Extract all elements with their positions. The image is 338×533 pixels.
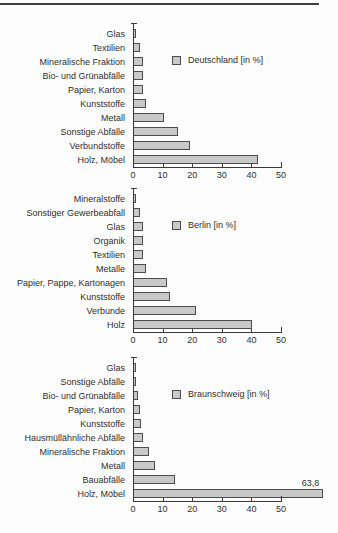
bar <box>134 278 167 287</box>
x-axis-berlin: 01020304050 <box>133 332 338 350</box>
legend-swatch-icon <box>172 390 181 399</box>
bar <box>134 141 190 150</box>
category-label: Sonstige Abfälle <box>0 375 129 389</box>
x-axis-tick <box>251 329 252 332</box>
x-tick-label: 30 <box>217 170 227 180</box>
category-label: Holz <box>0 318 129 332</box>
category-label: Mineralische Fraktion <box>0 55 129 69</box>
x-axis-tick <box>192 164 193 167</box>
x-tick-label: 10 <box>158 170 168 180</box>
bar <box>134 250 143 259</box>
x-tick-label: 50 <box>276 335 286 345</box>
x-axis-tick <box>222 498 223 501</box>
bar <box>134 264 146 273</box>
x-axis-braunschweig: 01020304050 <box>133 501 338 519</box>
x-tick-label: 40 <box>246 170 256 180</box>
x-tick-label: 10 <box>158 335 168 345</box>
legend-label: Deutschland [in %] <box>188 55 263 65</box>
bar <box>134 306 196 315</box>
bar <box>134 433 143 442</box>
bar <box>134 113 164 122</box>
bar <box>134 461 155 470</box>
bar <box>134 447 149 456</box>
bar <box>134 377 136 386</box>
top-rule <box>0 3 319 5</box>
category-label: Holz, Möbel <box>0 153 129 167</box>
category-label: Sonstiger Gewerbeabfall <box>0 206 129 220</box>
category-axis-deutschland: GlasTextilienMineralische FraktionBio- u… <box>0 27 129 167</box>
bar <box>134 391 138 400</box>
x-tick-label: 40 <box>246 335 256 345</box>
x-tick-label: 50 <box>276 504 286 514</box>
x-axis-tick <box>192 498 193 501</box>
category-label: Verbunde <box>0 304 129 318</box>
bar <box>134 85 143 94</box>
bar <box>134 475 175 484</box>
bar <box>134 71 143 80</box>
x-axis-tick <box>192 329 193 332</box>
plot-area-berlin: Berlin [in %] <box>133 188 338 332</box>
category-label: Mineralstoffe <box>0 192 129 206</box>
bar <box>134 194 136 203</box>
bar <box>134 222 143 231</box>
x-tick-label: 20 <box>187 335 197 345</box>
category-label: Kunststoffe <box>0 290 129 304</box>
category-label: Glas <box>0 220 129 234</box>
category-label: Metall <box>0 459 129 473</box>
category-axis-braunschweig: GlasSonstige AbfälleBio- und Grünabfälle… <box>0 361 129 501</box>
bar <box>134 489 323 498</box>
x-axis-tick <box>163 329 164 332</box>
legend-label: Berlin [in %] <box>188 220 236 230</box>
category-label: Papier, Pappe, Kartonagen <box>0 276 129 290</box>
x-axis-tick <box>251 498 252 501</box>
y-axis-top-tick <box>131 188 137 189</box>
x-axis-tick <box>133 164 134 167</box>
bar <box>134 320 252 329</box>
x-axis-tick <box>163 498 164 501</box>
x-axis-tick <box>281 162 282 167</box>
x-axis-tick <box>133 498 134 501</box>
x-axis-deutschland: 01020304050 <box>133 167 338 185</box>
category-label: Kunststoffe <box>0 97 129 111</box>
category-label: Bauabfälle <box>0 473 129 487</box>
category-label: Hausmüllähnliche Abfälle <box>0 431 129 445</box>
category-label: Papier, Karton <box>0 83 129 97</box>
bar <box>134 127 178 136</box>
bar <box>134 419 141 428</box>
x-tick-label: 40 <box>246 504 256 514</box>
category-label: Metalle <box>0 262 129 276</box>
x-axis-tick <box>222 164 223 167</box>
category-label: Glas <box>0 361 129 375</box>
x-axis-tick <box>163 164 164 167</box>
category-label: Organik <box>0 234 129 248</box>
legend-braunschweig: Braunschweig [in %] <box>172 387 270 401</box>
category-label: Textilien <box>0 248 129 262</box>
x-axis-line <box>133 332 282 333</box>
x-tick-label: 10 <box>158 504 168 514</box>
x-axis-tick <box>222 329 223 332</box>
bar <box>134 208 140 217</box>
bar <box>134 57 143 66</box>
legend-swatch-icon <box>172 221 181 230</box>
category-label: Verbundstoffe <box>0 139 129 153</box>
x-tick-label: 30 <box>217 335 227 345</box>
x-axis-line <box>133 501 282 502</box>
category-label: Sonstige Abfälle <box>0 125 129 139</box>
x-axis-tick <box>281 327 282 332</box>
x-tick-label: 20 <box>187 170 197 180</box>
waste-composition-report-page: GlasTextilienMineralische FraktionBio- u… <box>0 0 338 533</box>
x-axis-line <box>133 167 282 168</box>
category-label: Bio- und Grünabfälle <box>0 389 129 403</box>
x-axis-tick <box>281 496 282 501</box>
bar <box>134 405 140 414</box>
bar <box>134 236 143 245</box>
category-label: Kunststoffe <box>0 417 129 431</box>
category-label: Glas <box>0 27 129 41</box>
x-tick-label: 0 <box>130 335 135 345</box>
bar <box>134 155 258 164</box>
y-axis-top-tick <box>131 23 137 24</box>
x-tick-label: 50 <box>276 170 286 180</box>
x-tick-label: 0 <box>130 504 135 514</box>
legend-swatch-icon <box>172 56 181 65</box>
x-tick-label: 30 <box>217 504 227 514</box>
